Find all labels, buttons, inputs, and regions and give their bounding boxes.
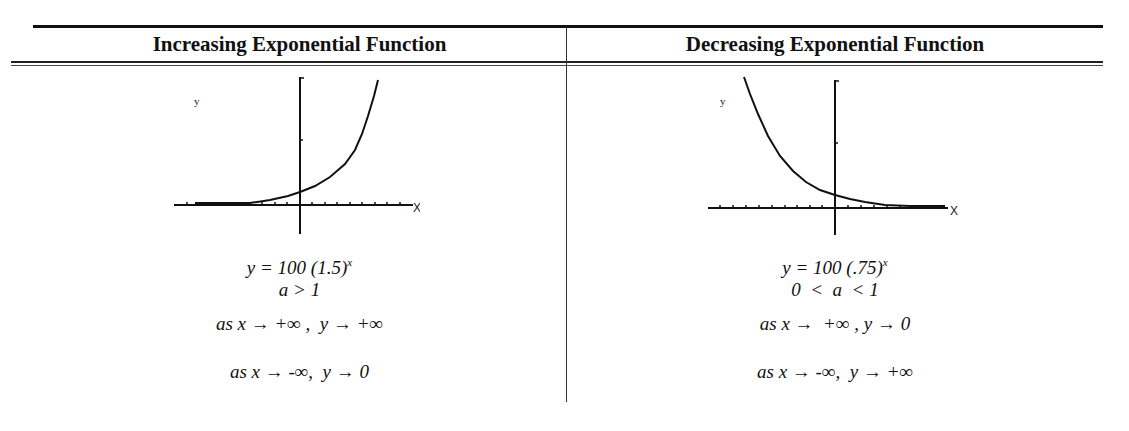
column-increasing: y = 100 (1.5)x a > 1 as x → +∞ , y → +∞ …: [33, 0, 566, 431]
limit-neg-decreasing: as x → -∞, y → +∞: [567, 361, 1103, 383]
limit-pos-increasing: as x → +∞ , y → +∞: [33, 313, 566, 335]
equation-decreasing: y = 100 (.75)x: [567, 256, 1103, 279]
limit-pos-decreasing: as x → +∞ , y → 0: [567, 313, 1103, 335]
limit-neg-increasing: as x → -∞, y → 0: [33, 361, 566, 383]
condition-decreasing: 0 < a < 1: [567, 279, 1103, 301]
column-decreasing: y = 100 (.75)x 0 < a < 1 as x → +∞ , y →…: [567, 0, 1103, 431]
equation-increasing: y = 100 (1.5)x: [33, 256, 566, 279]
condition-increasing: a > 1: [33, 279, 566, 301]
